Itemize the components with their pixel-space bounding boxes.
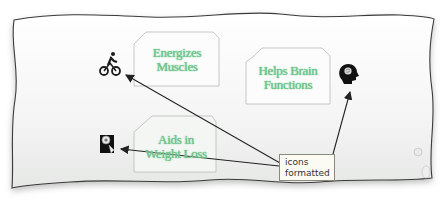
callout-icons-formatted: icons formatted xyxy=(279,154,335,181)
callout-line2: formatted xyxy=(285,168,334,179)
shape-label-line1: Energizes xyxy=(153,46,201,60)
figure-stage: Energizes Muscles Helps Brain Functions … xyxy=(0,0,443,201)
shape-label-line2: Muscles xyxy=(153,60,201,74)
weight-scale-icon xyxy=(100,135,114,153)
shape-label-line2: Weight Loss xyxy=(145,147,207,161)
shape-label-line1: Helps Brain xyxy=(258,64,317,78)
shape-energizes-muscles[interactable]: Energizes Muscles xyxy=(138,40,216,80)
shape-aids-weight-loss[interactable]: Aids in Weight Loss xyxy=(137,127,215,167)
callout-line1: icons xyxy=(285,157,334,168)
shape-label-line1: Aids in xyxy=(145,133,207,147)
torn-paper-background xyxy=(0,0,443,201)
shape-helps-brain-functions[interactable]: Helps Brain Functions xyxy=(249,58,327,98)
shape-label-line2: Functions xyxy=(258,78,317,92)
